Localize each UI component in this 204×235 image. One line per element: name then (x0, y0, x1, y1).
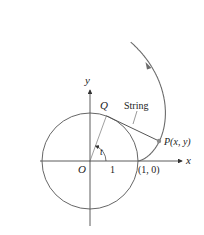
string-pointer (133, 111, 137, 124)
point-q-label: Q (100, 99, 108, 111)
y-axis-label: y (84, 74, 90, 86)
radius-oq (90, 116, 106, 161)
string-segment (106, 116, 159, 141)
origin-label: O (78, 163, 86, 175)
point-p-dot (157, 139, 161, 143)
point-p-label: P(x, y) (163, 136, 191, 148)
x-axis-label: x (185, 154, 191, 166)
involute-diagram: y x O 1 (1, 0) Q String P(x, y) t (0, 0, 204, 235)
point-1-0-label: (1, 0) (138, 164, 160, 176)
string-label: String (124, 100, 148, 111)
angle-t-label: t (100, 146, 103, 157)
unit-tick-label: 1 (110, 164, 115, 175)
